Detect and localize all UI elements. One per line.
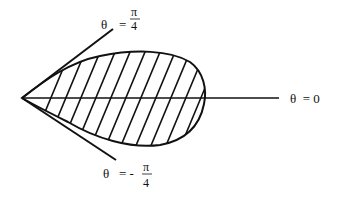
svg-text:π: π bbox=[131, 5, 137, 19]
ray-lower bbox=[22, 98, 116, 160]
lower-ray-label: θ = - π 4 bbox=[103, 160, 152, 190]
svg-text:=: = bbox=[119, 17, 126, 32]
svg-text:θ: θ bbox=[101, 17, 107, 32]
svg-text:4: 4 bbox=[143, 176, 149, 190]
upper-ray-label: θ = π 4 bbox=[101, 5, 140, 33]
svg-text:π: π bbox=[143, 160, 149, 174]
polar-region-diagram: θ = π 4 θ = 0 θ = - π 4 bbox=[0, 0, 341, 198]
svg-text:4: 4 bbox=[131, 19, 137, 33]
axis-label: θ = 0 bbox=[290, 91, 320, 106]
hatch-pattern bbox=[25, 40, 225, 160]
svg-text:θ: θ bbox=[103, 166, 109, 181]
svg-text:= -: = - bbox=[119, 166, 134, 181]
